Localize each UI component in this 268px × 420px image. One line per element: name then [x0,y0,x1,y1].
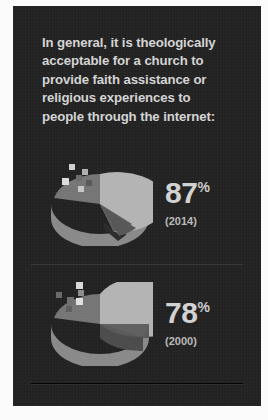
stat-year-2000: (2000) [165,335,210,347]
headline-line-5: people through the internet: [42,108,242,126]
pixel-square-icon [76,175,82,181]
pixel-square-icon [78,290,84,296]
pie-chart-2014 [48,162,153,246]
pixel-square-icon [56,292,62,298]
pixel-square-icon [69,164,75,170]
percent-symbol: % [197,179,209,195]
pixel-square-icon [62,178,69,185]
headline-line-3: provide faith assistance or [42,71,242,89]
pixel-square-icon [76,298,83,305]
pixel-square-icon [78,186,84,192]
stat-value-2014: 87 [165,178,197,208]
pixel-square-icon [76,282,83,289]
stat-label-2000: 78% (2000) [165,298,210,347]
pixel-square-icon [82,169,88,175]
stat-value-2000: 78 [165,298,197,328]
section-divider [31,264,243,265]
pie-chart-2014-graphic [48,162,153,246]
pie-chart-2000 [48,282,153,366]
bottom-divider [31,383,243,384]
stat-label-2014: 87% (2014) [165,178,210,227]
pixel-square-icon [86,180,92,186]
headline-line-1: In general, it is theologically [42,34,242,52]
stat-year-2014: (2014) [165,215,210,227]
headline-line-4: religious experiences to [42,89,242,107]
stat-block-2014: 87% (2014) [13,154,261,264]
pixel-square-icon [67,297,74,306]
stat-block-2000: 78% (2000) [13,274,261,384]
headline-line-2: acceptable for a church to [42,52,242,70]
infographic-card: In general, it is theologically acceptab… [13,6,261,406]
pixel-square-icon [66,306,72,312]
pie-chart-2000-graphic [48,282,153,366]
page-title: In general, it is theologically acceptab… [42,34,242,126]
percent-symbol: % [197,299,209,315]
